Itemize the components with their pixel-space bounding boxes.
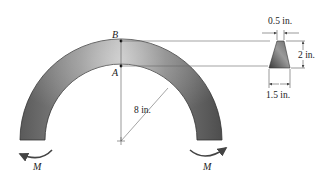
moment-arrow-right — [190, 148, 226, 156]
point-a-label: A — [111, 67, 119, 78]
point-b-label: B — [112, 29, 118, 40]
bottom-width-dimension — [269, 69, 290, 88]
top-width-label: 0.5 in. — [268, 16, 292, 26]
cross-section-trapezoid — [269, 41, 290, 68]
radius-label: 8 in. — [134, 105, 151, 115]
top-width-dimension — [262, 30, 299, 40]
curved-beam-diagram: B A 8 in. 0.5 in. 2 in. 1.5 in. M M — [0, 0, 332, 178]
bottom-width-label: 1.5 in. — [266, 90, 290, 100]
moment-arrow-left — [20, 150, 52, 158]
moment-right-label: M — [202, 161, 212, 172]
moment-left-label: M — [32, 161, 42, 172]
height-label: 2 in. — [298, 50, 315, 60]
